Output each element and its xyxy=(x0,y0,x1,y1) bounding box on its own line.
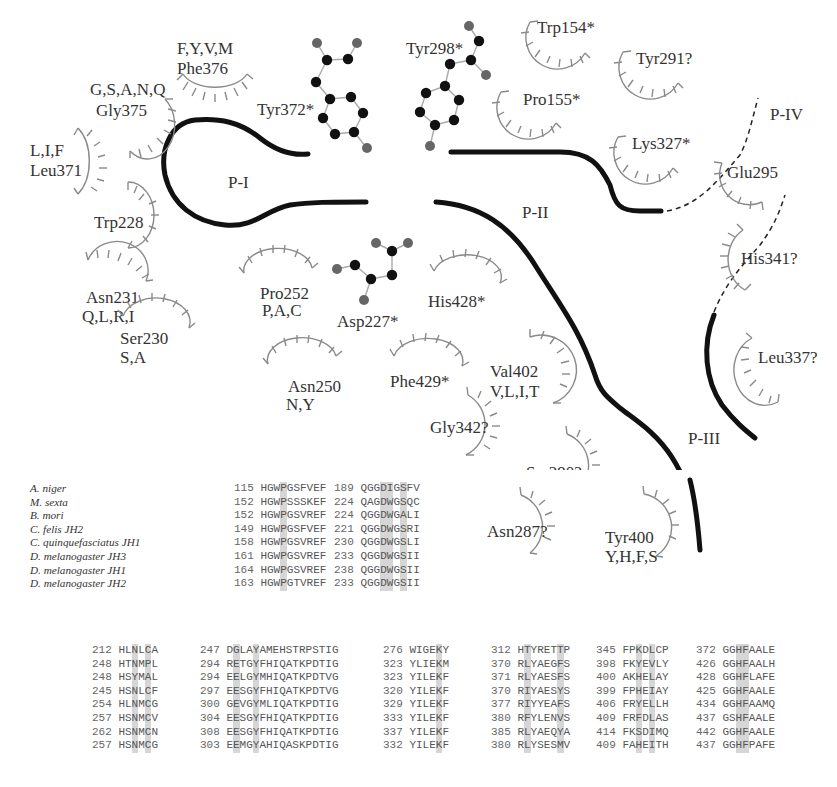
conserved-residue: S xyxy=(400,536,407,550)
residue-number: 323 xyxy=(383,658,409,670)
residue: R xyxy=(307,564,314,578)
conserved-residue: S xyxy=(636,726,643,740)
conserved-residue: L xyxy=(649,712,656,726)
sequence-row: 245 HSNLCF xyxy=(92,685,158,699)
residue-number: 257 xyxy=(92,712,118,724)
residue-number: 370 xyxy=(491,658,517,670)
residue: I xyxy=(416,698,423,712)
conserved-residue: H xyxy=(736,739,743,753)
residue: W xyxy=(274,564,281,578)
residue: A xyxy=(537,726,544,740)
residue: T xyxy=(319,685,326,699)
residue: V xyxy=(240,698,247,712)
binding-pocket-diagram-lower: Asn287? Tyr400 Y,H,F,S xyxy=(440,470,740,570)
residue: A xyxy=(749,644,756,658)
sequence-row: 224 QGGDWGALI xyxy=(334,509,420,523)
residue: G xyxy=(246,726,253,740)
sequence-row: 163 HGWPGTVREF xyxy=(234,577,326,591)
sequence-row: 380 RFYLENVS xyxy=(491,712,570,726)
sequence-row: 437 GSHFAALE xyxy=(696,712,775,726)
residue: V xyxy=(300,564,307,578)
sequence-row: 221 QGGDWGSRI xyxy=(334,523,420,537)
residue: E xyxy=(544,671,551,685)
conserved-residue: E xyxy=(233,685,240,699)
conserved-residue: Y xyxy=(253,644,260,658)
residue: S xyxy=(286,644,293,658)
conserved-residue: A xyxy=(400,509,407,523)
residue: Y xyxy=(662,685,669,699)
residue: L xyxy=(240,644,247,658)
residue: G xyxy=(374,482,381,496)
residue-label-gly342: Gly342? xyxy=(430,418,489,437)
residue: K xyxy=(299,739,306,753)
conserved-residue: W xyxy=(387,523,394,537)
residue: Q xyxy=(279,739,286,753)
residue: G xyxy=(246,658,253,672)
conserved-residue: F xyxy=(742,658,749,672)
residue: V xyxy=(151,712,158,726)
residue-number: 323 xyxy=(383,671,409,683)
residue: R xyxy=(629,698,636,712)
residue: G xyxy=(367,523,374,537)
residue: T xyxy=(293,577,300,591)
residue: W xyxy=(274,482,281,496)
residue: A xyxy=(286,698,293,712)
conserved-residue: P xyxy=(280,523,287,537)
residue: Y xyxy=(662,658,669,672)
conserved-residue: H xyxy=(736,671,743,685)
conserved-residue: D xyxy=(380,564,387,578)
conserved-residue: N xyxy=(132,698,139,712)
conserved-residue: P xyxy=(280,550,287,564)
species-name: A. niger xyxy=(30,482,140,496)
residue: Y xyxy=(442,644,449,658)
sequence-row: 230 QGGDWGSLI xyxy=(334,536,420,550)
residue: P xyxy=(306,658,313,672)
residue-number: 158 xyxy=(234,536,260,548)
residue-number: 189 xyxy=(334,482,360,494)
residue: G xyxy=(374,550,381,564)
residue-number: 164 xyxy=(234,564,260,576)
residue: G xyxy=(393,509,400,523)
sequence-row: 377 RIYYEAFS xyxy=(491,698,570,712)
residue: N xyxy=(550,712,557,726)
sequence-row: 442 GGHFAALE xyxy=(696,726,775,740)
sequence-row: 164 HGWPGSVREF xyxy=(234,564,326,578)
residue: Q xyxy=(769,698,776,712)
sequence-row: 262 HSNMCN xyxy=(92,726,158,740)
residue: S xyxy=(564,671,571,685)
residue-number: 300 xyxy=(200,698,226,710)
conserved-residue: F xyxy=(742,671,749,685)
residue: G xyxy=(287,564,294,578)
residue: E xyxy=(226,712,233,726)
conserved-residue: S xyxy=(400,564,407,578)
residue: R xyxy=(299,644,306,658)
residue: I xyxy=(325,698,332,712)
residue-number: 224 xyxy=(334,509,360,521)
residue: D xyxy=(226,644,233,658)
residue: E xyxy=(429,644,436,658)
conserved-residue: F xyxy=(524,712,531,726)
residue: S xyxy=(550,685,557,699)
conserved-residue: Y xyxy=(132,671,139,685)
conserved-residue: H xyxy=(736,685,743,699)
residue: S xyxy=(293,496,300,510)
sequence-block: 345 FPKDLCP398 FKYEVLY400 AKHELAY399 FPH… xyxy=(596,644,669,753)
conserved-residue: F xyxy=(742,712,749,726)
species-name: B. mori xyxy=(30,509,140,523)
residue-arc-asn250 xyxy=(263,335,342,364)
binding-pocket-diagram: P-I P-II P-III P-IV Tyr372* xyxy=(0,0,837,470)
conserved-residue: L xyxy=(649,671,656,685)
residue: I xyxy=(273,726,280,740)
residue: A xyxy=(286,712,293,726)
residue: Q xyxy=(360,496,367,510)
residue-label-ser230: Ser230 xyxy=(120,329,168,348)
residue: I xyxy=(407,550,414,564)
residue: A xyxy=(286,671,293,685)
residue: V xyxy=(300,577,307,591)
conserved-residue: Y xyxy=(557,726,564,740)
residue: V xyxy=(564,739,571,753)
residue: A xyxy=(749,698,756,712)
residue-label-tyr298: Tyr298* xyxy=(406,39,463,58)
species-name: M. sexta xyxy=(30,496,140,510)
conserved-residue: P xyxy=(280,536,287,550)
